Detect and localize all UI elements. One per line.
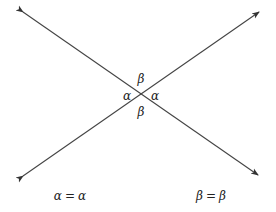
angle-label-bottom: β bbox=[138, 106, 145, 118]
line-nw-se bbox=[23, 12, 258, 175]
angle-label-left: α bbox=[123, 90, 131, 102]
alpha-equation-rhs: α bbox=[78, 189, 86, 203]
beta-equation-operator: = bbox=[203, 189, 219, 203]
alpha-equation-operator: = bbox=[62, 189, 78, 203]
alpha-equation: α=α bbox=[54, 190, 86, 202]
angle-label-right: α bbox=[151, 90, 159, 102]
beta-equation-rhs: β bbox=[219, 189, 226, 203]
alpha-equation-lhs: α bbox=[54, 189, 62, 203]
angle-label-top: β bbox=[138, 73, 145, 85]
beta-equation-lhs: β bbox=[196, 189, 203, 203]
beta-equation: β=β bbox=[196, 190, 226, 202]
